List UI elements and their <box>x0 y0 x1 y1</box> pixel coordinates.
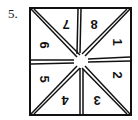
section-number-3: 3 <box>93 93 100 108</box>
section-number-8: 8 <box>90 17 97 32</box>
section-number-1: 1 <box>110 38 125 45</box>
section-number-2: 2 <box>110 71 125 78</box>
section-number-4: 4 <box>61 93 69 108</box>
section-number-6: 6 <box>37 41 52 48</box>
octant-square-figure: 7 8 1 2 3 4 5 6 <box>0 0 138 120</box>
section-number-5: 5 <box>37 75 52 82</box>
section-number-7: 7 <box>62 17 69 32</box>
